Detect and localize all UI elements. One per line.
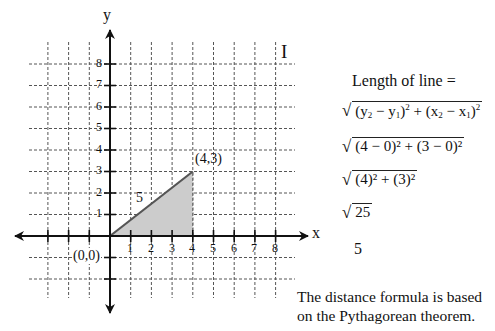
grid: [29, 42, 295, 298]
formula-step-2-expr: (4 − 0)² + (3 − 0)²: [352, 137, 464, 155]
x-tick-label-2: 2: [148, 241, 154, 256]
x-tick-label-1: 1: [127, 241, 133, 256]
formula-step-4: √25: [342, 203, 372, 223]
sqrt-icon: √: [342, 203, 351, 223]
y-tick-label-8: 8: [96, 56, 102, 71]
y-axis-label: y: [103, 6, 111, 24]
origin-label: (0,0): [72, 248, 101, 264]
caption-line-1: The distance formula is based: [297, 288, 482, 306]
x-axis-label: x: [312, 224, 320, 242]
y-tick-label-4: 4: [96, 142, 102, 157]
y-tick-label-2: 2: [96, 185, 102, 200]
sqrt-icon: √: [342, 101, 351, 121]
point-label: (4,3): [195, 151, 222, 167]
x-tick-label-3: 3: [169, 241, 175, 256]
formula-step-3: √(4)² + (3)²: [342, 170, 417, 190]
hypotenuse-label: 5: [136, 190, 143, 206]
formula-step-4-expr: 25: [352, 203, 372, 221]
x-tick-label-8: 8: [272, 241, 278, 256]
x-tick-label-7: 7: [251, 241, 257, 256]
caption-line-2: on the Pythagorean theorem.: [297, 307, 475, 325]
sqrt-icon: √: [342, 170, 351, 190]
formula-step-1-expr: (y2 − y1)2 + (x2 − x1)2: [352, 101, 482, 120]
formula-result: 5: [354, 240, 362, 258]
quadrant-label: I: [281, 41, 287, 63]
formula-step-1: √(y2 − y1)2 + (x2 − x1)2: [342, 101, 482, 121]
x-tick-label-4: 4: [189, 241, 195, 256]
formula-step-2: √(4 − 0)² + (3 − 0)²: [342, 137, 464, 157]
x-tick-label-6: 6: [231, 241, 237, 256]
formula-step-3-expr: (4)² + (3)²: [352, 170, 417, 188]
x-tick-label-5: 5: [210, 241, 216, 256]
y-tick-label-1: 1: [96, 206, 102, 221]
y-tick-label-6: 6: [96, 99, 102, 114]
formula-heading: Length of line =: [352, 72, 456, 90]
y-tick-label-3: 3: [96, 163, 102, 178]
y-tick-label-7: 7: [96, 77, 102, 92]
y-tick-label-5: 5: [96, 120, 102, 135]
sqrt-icon: √: [342, 137, 351, 157]
